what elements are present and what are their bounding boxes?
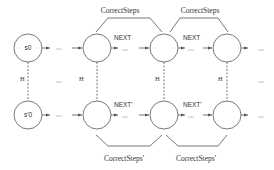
brace-bottom-label-2: CorrectSteps' — [176, 154, 217, 163]
top-row-ellipses — [56, 49, 264, 50]
brace-bottom-2 — [166, 135, 227, 146]
state-s-prime-0-label: s'0 — [24, 111, 32, 118]
state-bottom-2 — [150, 101, 178, 129]
h-label-2: H — [79, 75, 84, 82]
next-label-top-1: NEXT — [114, 34, 131, 41]
brace-top-2 — [170, 18, 228, 32]
brace-top-label-1: CorrectSteps — [101, 6, 140, 15]
state-top-1 — [83, 34, 111, 62]
next-label-bottom-2: NEXT' — [183, 101, 202, 108]
brace-top-1 — [96, 18, 162, 32]
state-s0-label: s0 — [25, 44, 32, 51]
bottom-row-ellipses — [56, 116, 264, 117]
next-label-top-2: NEXT — [183, 34, 200, 41]
brace-bottom-1 — [96, 135, 162, 146]
h-label-4: H — [218, 75, 223, 82]
h-label-1: H — [20, 75, 25, 82]
state-bottom-3 — [213, 101, 241, 129]
brace-top-label-2: CorrectSteps — [181, 6, 220, 15]
state-bottom-1 — [83, 101, 111, 129]
next-label-bottom-1: NEXT' — [114, 101, 133, 108]
h-label-3: H — [155, 75, 160, 82]
state-top-3 — [213, 34, 241, 62]
brace-bottom-label-1: CorrectSteps' — [104, 154, 145, 163]
state-top-2 — [150, 34, 178, 62]
simulation-diagram: CorrectSteps CorrectSteps s0 NEXT NEXT H… — [0, 0, 274, 170]
h-relations — [28, 62, 227, 101]
